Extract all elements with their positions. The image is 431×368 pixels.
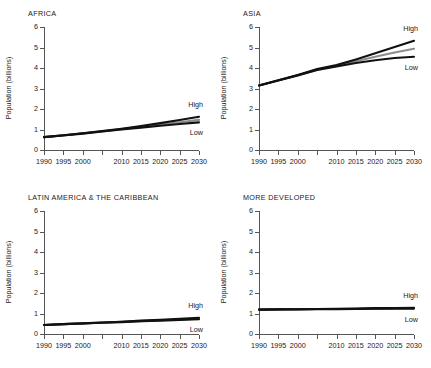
series-line-low bbox=[44, 122, 199, 137]
y-tick-label: 0 bbox=[240, 329, 253, 338]
x-tick bbox=[199, 335, 200, 339]
x-tick bbox=[44, 335, 45, 339]
y-tick-label: 6 bbox=[25, 22, 38, 31]
annotation-low-africa: Low bbox=[190, 128, 203, 137]
y-tick-label: 1 bbox=[240, 125, 253, 134]
annotation-high-asia: High bbox=[403, 24, 418, 33]
y-tick-label: 2 bbox=[240, 104, 253, 113]
x-tick bbox=[259, 335, 260, 339]
panel-title-more_developed: MORE DEVELOPED bbox=[243, 193, 315, 202]
annotation-low-more_developed: Low bbox=[405, 315, 418, 324]
y-axis-label: Population (billions) bbox=[4, 241, 13, 304]
x-tick bbox=[83, 335, 84, 339]
y-tick-label: 1 bbox=[240, 309, 253, 318]
y-axis-label: Population (billions) bbox=[219, 241, 228, 304]
x-tick-label: 2030 bbox=[184, 157, 214, 166]
y-tick-label: 0 bbox=[25, 329, 38, 338]
x-tick-label: 2000 bbox=[283, 157, 313, 166]
annotation-high-more_developed: High bbox=[403, 291, 418, 300]
y-tick-label: 6 bbox=[25, 206, 38, 215]
y-tick-label: 3 bbox=[25, 84, 38, 93]
x-tick bbox=[317, 151, 318, 155]
x-tick bbox=[199, 151, 200, 155]
population-projection-figure: AFRICAPopulation (billions)0123456199019… bbox=[0, 0, 431, 368]
x-tick bbox=[122, 335, 123, 339]
x-tick bbox=[375, 151, 376, 155]
annotation-high-africa: High bbox=[188, 100, 203, 109]
y-tick-label: 5 bbox=[25, 227, 38, 236]
x-tick-label: 2030 bbox=[399, 341, 429, 350]
y-tick-label: 3 bbox=[25, 268, 38, 277]
x-tick bbox=[356, 151, 357, 155]
x-tick bbox=[337, 151, 338, 155]
x-tick bbox=[278, 335, 279, 339]
x-tick bbox=[356, 335, 357, 339]
series-line-low bbox=[259, 57, 414, 86]
x-tick bbox=[298, 151, 299, 155]
y-tick-label: 6 bbox=[240, 206, 253, 215]
x-tick bbox=[414, 335, 415, 339]
x-tick bbox=[160, 151, 161, 155]
x-tick bbox=[141, 151, 142, 155]
y-tick-label: 1 bbox=[25, 125, 38, 134]
annotation-high-latin_america: High bbox=[188, 301, 203, 310]
x-tick bbox=[375, 335, 376, 339]
x-tick-label: 2030 bbox=[184, 341, 214, 350]
y-axis-label: Population (billions) bbox=[219, 57, 228, 120]
x-tick bbox=[122, 151, 123, 155]
x-tick bbox=[102, 335, 103, 339]
y-tick-label: 0 bbox=[240, 145, 253, 154]
y-tick-label: 4 bbox=[25, 63, 38, 72]
y-tick-label: 3 bbox=[240, 268, 253, 277]
x-tick-label: 2000 bbox=[68, 157, 98, 166]
panel-title-africa: AFRICA bbox=[28, 9, 56, 18]
x-tick bbox=[298, 335, 299, 339]
x-tick bbox=[63, 335, 64, 339]
y-tick-label: 4 bbox=[25, 247, 38, 256]
x-tick bbox=[395, 335, 396, 339]
plot-area-more_developed: Population (billions)0123456199019952000… bbox=[259, 211, 414, 334]
series-layer-asia bbox=[259, 27, 414, 150]
series-layer-latin_america bbox=[44, 211, 199, 334]
x-tick bbox=[317, 335, 318, 339]
panel-title-latin_america: LATIN AMERICA & THE CARIBBEAN bbox=[28, 193, 159, 202]
y-tick-label: 3 bbox=[240, 84, 253, 93]
plot-area-africa: Population (billions)0123456199019952000… bbox=[44, 27, 199, 150]
panel-title-asia: ASIA bbox=[243, 9, 261, 18]
x-tick bbox=[414, 151, 415, 155]
plot-area-latin_america: Population (billions)0123456199019952000… bbox=[44, 211, 199, 334]
y-tick-label: 2 bbox=[25, 104, 38, 113]
panel-asia: ASIAPopulation (billions)012345619901995… bbox=[215, 0, 430, 184]
plot-area-asia: Population (billions)0123456199019952000… bbox=[259, 27, 414, 150]
y-axis-label: Population (billions) bbox=[4, 57, 13, 120]
y-tick-label: 2 bbox=[25, 288, 38, 297]
y-tick-label: 2 bbox=[240, 288, 253, 297]
y-tick-label: 4 bbox=[240, 247, 253, 256]
y-tick-label: 0 bbox=[25, 145, 38, 154]
x-tick bbox=[141, 335, 142, 339]
panel-latin_america: LATIN AMERICA & THE CARIBBEANPopulation … bbox=[0, 184, 215, 368]
x-tick bbox=[395, 151, 396, 155]
series-layer-africa bbox=[44, 27, 199, 150]
x-tick bbox=[180, 151, 181, 155]
y-tick-label: 1 bbox=[25, 309, 38, 318]
x-tick bbox=[83, 151, 84, 155]
series-line-low bbox=[259, 309, 414, 310]
x-tick bbox=[44, 151, 45, 155]
y-tick-label: 4 bbox=[240, 63, 253, 72]
series-line-low bbox=[44, 319, 199, 325]
x-tick-label: 2000 bbox=[283, 341, 313, 350]
x-tick bbox=[160, 335, 161, 339]
x-tick bbox=[259, 151, 260, 155]
x-tick bbox=[337, 335, 338, 339]
x-tick bbox=[278, 151, 279, 155]
annotation-low-latin_america: Low bbox=[190, 325, 203, 334]
x-tick bbox=[102, 151, 103, 155]
y-tick-label: 5 bbox=[240, 43, 253, 52]
y-tick-label: 5 bbox=[240, 227, 253, 236]
x-tick-label: 2000 bbox=[68, 341, 98, 350]
annotation-low-asia: Low bbox=[405, 63, 418, 72]
y-tick-label: 6 bbox=[240, 22, 253, 31]
series-layer-more_developed bbox=[259, 211, 414, 334]
panel-more_developed: MORE DEVELOPEDPopulation (billions)01234… bbox=[215, 184, 430, 368]
